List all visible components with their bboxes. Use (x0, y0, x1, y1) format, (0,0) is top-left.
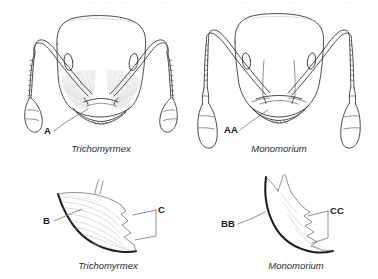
panel-bottom-left-trichomyrmex: B C Trichomyrmex (43, 180, 165, 271)
head-capsule (235, 14, 324, 117)
panel-bottom-right-monomorium: BB CC Monomorium (221, 175, 344, 271)
mandible-outer-margin (265, 177, 333, 253)
panel-top-left-trichomyrmex: A Trichomyrmex (25, 16, 178, 154)
callout-cc-label: CC (330, 205, 344, 216)
callout-bb: BB (221, 212, 265, 229)
clypeus (252, 96, 306, 105)
genus-label-bottom-right: Monomorium (268, 260, 324, 271)
callout-c-label: C (158, 204, 165, 215)
figure-plate: A Trichomyrmex (0, 0, 378, 279)
mandible-base (266, 177, 278, 191)
panel-top-right-monomorium: AA Monomorium (198, 14, 361, 154)
head-capsule (57, 16, 146, 117)
mandible-basal-process (278, 175, 291, 192)
callout-bb-label: BB (221, 218, 235, 229)
mandible-striations (59, 195, 130, 250)
mandible-basal-process (95, 180, 103, 194)
callout-cc: CC (308, 205, 344, 243)
mandible-outer-margin (58, 194, 136, 252)
callout-a-label: A (44, 125, 51, 136)
antenna-right (288, 30, 360, 148)
mandible-upper-margin (58, 193, 121, 206)
genus-label-top-right: Monomorium (251, 143, 307, 154)
callout-b-label: B (43, 215, 50, 226)
head-setae-shading (61, 70, 141, 110)
callout-c: C (133, 204, 165, 240)
mandible-inner-line (291, 192, 303, 207)
genus-label-bottom-left: Trichomyrmex (78, 260, 139, 271)
mandible-teeth (121, 205, 136, 251)
callout-b: B (43, 209, 82, 226)
genus-label-top-left: Trichomyrmex (71, 143, 132, 154)
callout-a: A (44, 109, 88, 136)
frontal-lobes (263, 60, 295, 95)
callout-aa-label: AA (224, 124, 238, 135)
